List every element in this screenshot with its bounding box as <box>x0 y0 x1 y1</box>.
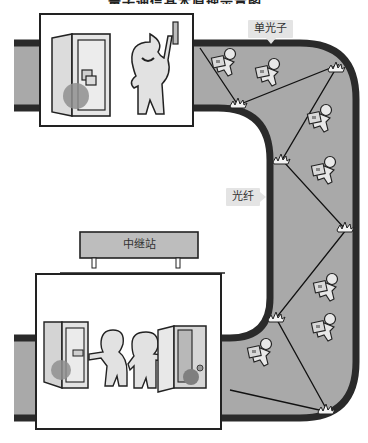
quantum-communication-diagram: 量子通信基本原理示意图 单光子 光纤 中继站 <box>0 0 368 443</box>
safe-closed-icon <box>44 322 88 388</box>
diagram-canvas <box>0 0 368 443</box>
receiver-panel <box>36 274 221 429</box>
optical-fiber-label: 光纤 <box>226 188 260 206</box>
safe-locked-icon <box>52 34 110 116</box>
safe-open-icon <box>158 326 206 392</box>
diagram-title: 量子通信基本原理示意图 <box>90 0 280 4</box>
single-photon-label: 单光子 <box>248 20 293 38</box>
relay-station-label: 中继站 <box>80 232 198 258</box>
sender-panel <box>40 14 193 126</box>
